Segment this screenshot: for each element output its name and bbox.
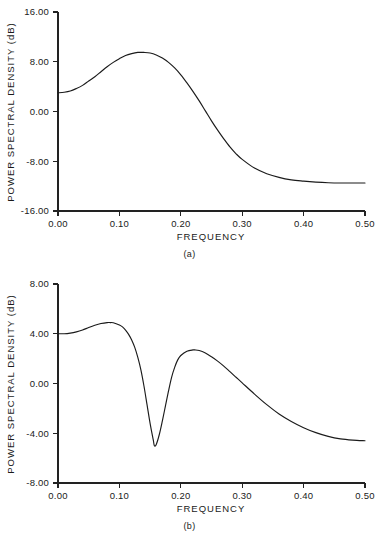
y-axis-tick-label-b: 4.00 (30, 328, 49, 339)
x-axis-title-a: FREQUENCY (177, 231, 246, 242)
y-axis-title-b: POWER SPECTRAL DENSITY (dB) (5, 294, 16, 474)
axis-ticks-b (53, 284, 365, 488)
x-axis-tick-label-a: 0.50 (355, 218, 374, 229)
x-axis-tick-label-a: 0.10 (110, 218, 129, 229)
y-axis-tick-label-a: 16.00 (24, 6, 49, 17)
x-axis-tick-label-a: 0.20 (171, 218, 190, 229)
data-curve-b (58, 322, 365, 446)
y-axis-tick-label-a: 8.00 (30, 56, 49, 67)
y-axis-tick-labels-b: 8.004.000.00-4.00-8.00 (26, 278, 49, 488)
x-axis-tick-label-a: 0.40 (294, 218, 313, 229)
y-axis-tick-label-b: 0.00 (30, 378, 49, 389)
x-axis-tick-label-a: 0.00 (48, 218, 67, 229)
x-axis-tick-label-a: 0.30 (233, 218, 252, 229)
x-axis-tick-label-b: 0.00 (48, 490, 67, 501)
x-axis-tick-labels-b: 0.000.100.200.300.400.50 (48, 490, 374, 501)
data-curve-a (58, 52, 365, 183)
x-axis-tick-label-b: 0.10 (110, 490, 129, 501)
figure-panel-b: 8.004.000.00-4.00-8.00 0.000.100.200.300… (0, 272, 379, 545)
y-axis-tick-label-a: -8.00 (26, 156, 49, 167)
x-axis-tick-label-b: 0.40 (294, 490, 313, 501)
x-axis-tick-label-b: 0.30 (233, 490, 252, 501)
y-axis-tick-label-b: -4.00 (26, 428, 49, 439)
chart-b: 8.004.000.00-4.00-8.00 0.000.100.200.300… (0, 272, 379, 522)
x-axis-tick-label-b: 0.20 (171, 490, 190, 501)
figure-panel-a: 16.008.000.00-8.00-16.00 0.000.100.200.3… (0, 0, 379, 272)
y-axis-tick-label-a: 0.00 (30, 106, 49, 117)
x-axis-tick-label-b: 0.50 (355, 490, 374, 501)
chart-a: 16.008.000.00-8.00-16.00 0.000.100.200.3… (0, 0, 379, 250)
y-axis-title-a: POWER SPECTRAL DENSITY (dB) (5, 22, 16, 202)
x-axis-tick-labels-a: 0.000.100.200.300.400.50 (48, 218, 374, 229)
y-axis-tick-labels-a: 16.008.000.00-8.00-16.00 (21, 6, 49, 216)
y-axis-tick-label-a: -16.00 (21, 205, 49, 216)
figure-caption-a: (a) (0, 249, 379, 259)
y-axis-tick-label-b: -8.00 (26, 477, 49, 488)
y-axis-tick-label-b: 8.00 (30, 278, 49, 289)
figure-caption-b: (b) (0, 521, 379, 531)
axis-ticks-a (53, 12, 365, 216)
x-axis-title-b: FREQUENCY (177, 503, 246, 514)
